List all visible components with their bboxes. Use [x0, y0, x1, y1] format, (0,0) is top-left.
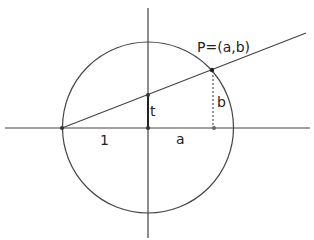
- point-p: [210, 68, 214, 72]
- label-a: a: [176, 131, 185, 147]
- label-t: t: [150, 103, 156, 119]
- point-minus-one: [60, 126, 64, 130]
- point-t: [146, 93, 150, 97]
- secant-line: [62, 33, 306, 128]
- label-b: b: [217, 94, 226, 110]
- point-a: [212, 126, 216, 130]
- label-one: 1: [100, 132, 109, 148]
- label-point-p: P=(a,b): [197, 39, 250, 55]
- origin-point: [146, 126, 150, 130]
- unit-circle-diagram: P=(a,b) t b 1 a: [0, 0, 314, 240]
